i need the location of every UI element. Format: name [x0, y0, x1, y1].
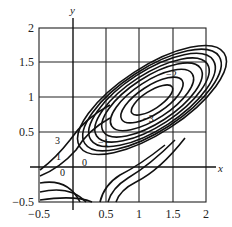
x-tick: 1.5 [166, 207, 181, 221]
x-tick: −0.5 [28, 207, 50, 221]
x-tick: 2 [203, 207, 209, 221]
y-tick-labels: 2 1.5 1 0.5 −0.5 [12, 21, 34, 209]
contour-label: 3 [55, 135, 60, 146]
contour-plot: −0.5 0.5 1 1.5 2 2 1.5 1 0.5 −0.5 y x −3… [0, 0, 232, 227]
y-tick: 0.5 [19, 125, 34, 139]
contour-lines [40, 25, 232, 202]
y-tick: 1 [28, 90, 34, 104]
y-tick: −0.5 [12, 195, 34, 209]
x-axis-label: x [217, 162, 223, 174]
x-tick: 1 [136, 207, 142, 221]
x-tick: 0.5 [99, 207, 114, 221]
contour-label: 1 [56, 151, 61, 162]
y-tick: 1.5 [19, 55, 34, 69]
contour-label: 0 [60, 167, 65, 178]
contour-label: −3 [143, 113, 154, 124]
y-tick: 2 [28, 21, 34, 35]
y-axis-label: y [69, 4, 75, 16]
x-tick-labels: −0.5 0.5 1 1.5 2 [28, 207, 209, 221]
contour-label: 0 [82, 157, 87, 168]
contour-label: −2 [166, 69, 177, 80]
contour-label: −1 [98, 137, 109, 148]
